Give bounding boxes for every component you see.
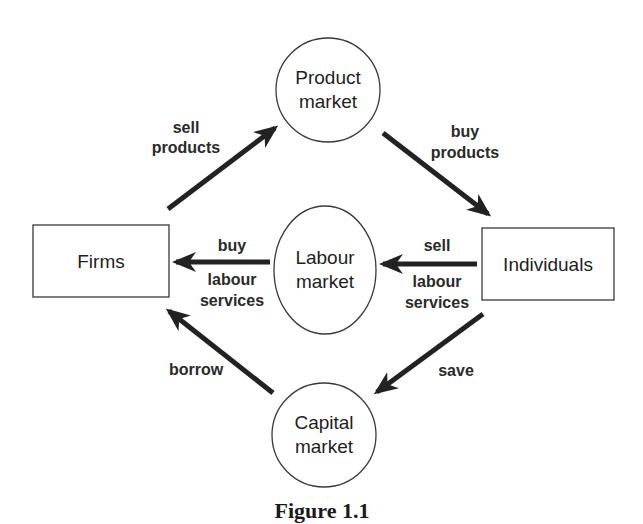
sell-products-line2: products [152, 139, 221, 156]
labour-market-ellipse [274, 206, 376, 334]
firms-node: Firms [33, 225, 169, 297]
product-market-label-line1: Product [295, 67, 361, 88]
save-text: save [438, 362, 474, 379]
product-market-node: Product market [276, 38, 380, 142]
borrow-label: borrow [169, 361, 224, 378]
sell-labour-line1: sell [424, 237, 451, 254]
sell-labour-services-label: sell labour services [405, 237, 469, 311]
capital-market-node: Capital market [272, 383, 376, 487]
product-market-circle [276, 38, 380, 142]
buy-labour-line2: labour [208, 271, 257, 288]
figure-caption: Figure 1.1 [275, 498, 370, 523]
capital-market-circle [272, 383, 376, 487]
labour-market-label-line2: market [296, 271, 355, 292]
borrow-arrow-icon [169, 311, 273, 393]
buy-labour-line1: buy [218, 237, 247, 254]
save-arrow-icon [377, 314, 483, 392]
circular-flow-diagram: Firms Individuals Product market Labour … [0, 0, 643, 524]
save-label: save [438, 362, 474, 379]
sell-labour-line2: labour [413, 273, 462, 290]
firms-label: Firms [77, 251, 124, 272]
labour-market-node: Labour market [274, 206, 376, 334]
labour-market-label-line1: Labour [295, 247, 355, 268]
capital-market-label-line2: market [295, 436, 354, 457]
sell-products-label: sell products [152, 119, 221, 156]
buy-labour-line3: services [200, 292, 264, 309]
capital-market-label-line1: Capital [294, 412, 353, 433]
borrow-text: borrow [169, 361, 224, 378]
sell-labour-line3: services [405, 294, 469, 311]
sell-products-line1: sell [173, 119, 200, 136]
buy-products-label: buy products [431, 123, 500, 161]
individuals-label: Individuals [503, 254, 593, 275]
buy-products-line2: products [431, 144, 500, 161]
product-market-label-line2: market [299, 91, 358, 112]
buy-labour-services-label: buy labour services [200, 237, 264, 309]
buy-products-line1: buy [451, 123, 480, 140]
individuals-node: Individuals [482, 228, 614, 300]
